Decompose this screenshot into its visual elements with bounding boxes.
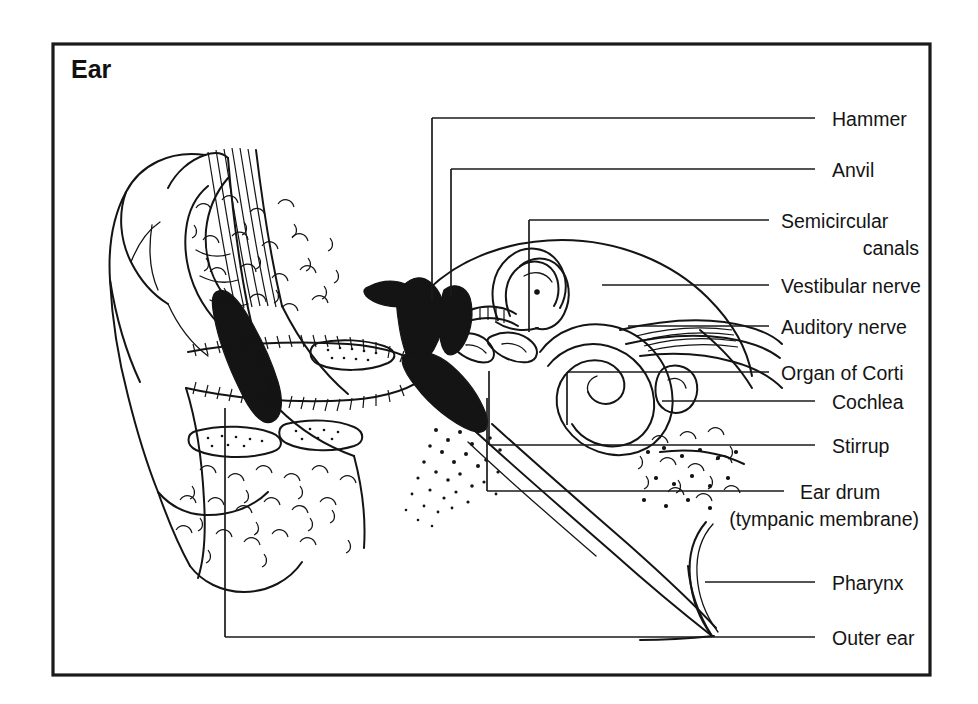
label-hammer: Hammer: [832, 108, 907, 130]
ear-diagram-figure: Ear: [0, 0, 978, 704]
label-ear-drum: Ear drum: [800, 481, 880, 503]
label-semicircular-canals: Semicircular: [781, 210, 889, 232]
diagram-canvas: Ear: [0, 0, 978, 704]
label-cochlea: Cochlea: [832, 391, 904, 413]
label-anvil: Anvil: [832, 159, 874, 181]
label-auditory-nerve: Auditory nerve: [781, 316, 907, 338]
figure-title: Ear: [71, 55, 112, 83]
label-stirrup: Stirrup: [832, 435, 890, 457]
label-organ-of-corti: Organ of Corti: [781, 362, 903, 384]
label-vestibular-nerve: Vestibular nerve: [781, 275, 921, 297]
label-outer-ear: Outer ear: [832, 627, 915, 649]
background: [0, 0, 978, 704]
label-ear-drum-line2: (tympanic membrane): [729, 508, 919, 530]
label-semicircular-canals-line2: canals: [863, 237, 920, 259]
label-pharynx: Pharynx: [832, 572, 904, 594]
